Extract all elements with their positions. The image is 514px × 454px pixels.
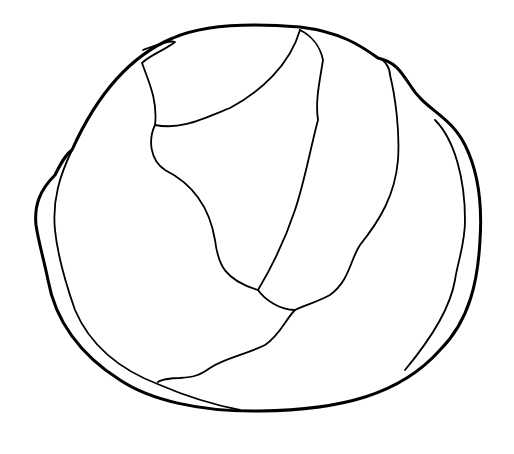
leaf-edge-left [54,150,240,410]
leaf-top-left [142,30,300,126]
cabbage-drawing [0,0,514,454]
cabbage-outer-outline [36,25,481,411]
leaf-right [258,58,398,310]
leaf-bottom [158,310,295,382]
leaf-center [151,30,323,290]
